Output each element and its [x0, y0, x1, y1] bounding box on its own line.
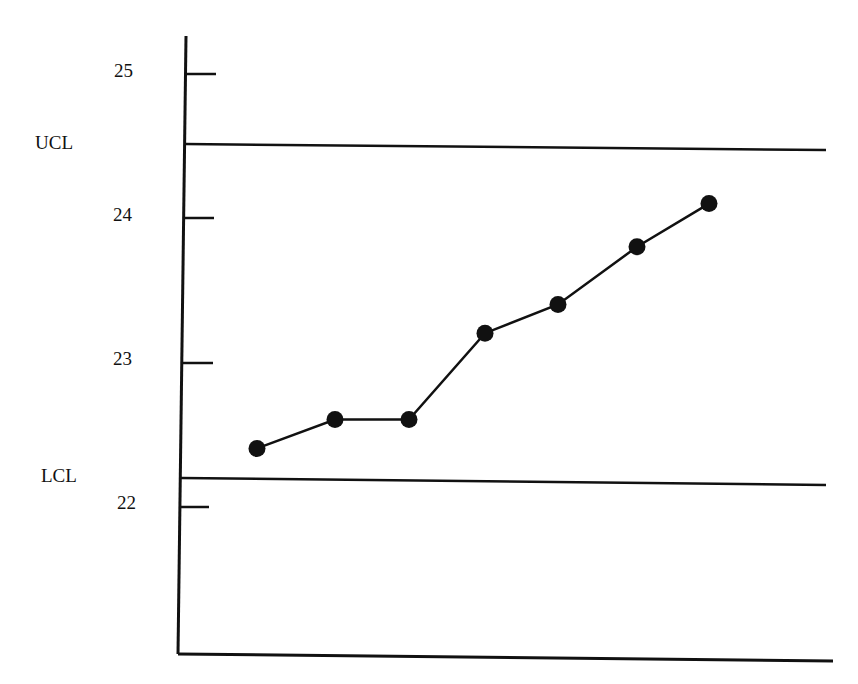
data-point-7 — [701, 195, 718, 212]
ucl-label: UCL — [35, 133, 73, 152]
data-point-3 — [401, 411, 418, 428]
x-axis — [178, 654, 833, 661]
y-axis — [178, 36, 186, 654]
data-point-5 — [550, 296, 567, 313]
y-ticks — [181, 74, 216, 507]
tick-label-25: 25 — [114, 61, 133, 80]
data-point-1 — [249, 440, 266, 457]
data-point-2 — [327, 411, 344, 428]
data-point-6 — [629, 238, 646, 255]
data-point-4 — [477, 325, 494, 342]
series-markers — [249, 195, 718, 457]
control-chart — [0, 0, 858, 684]
lcl-line — [181, 478, 826, 485]
lcl-label: LCL — [41, 466, 77, 485]
tick-label-23: 23 — [113, 349, 132, 368]
ucl-line — [185, 144, 826, 150]
tick-label-24: 24 — [113, 205, 132, 224]
tick-label-22: 22 — [117, 493, 136, 512]
